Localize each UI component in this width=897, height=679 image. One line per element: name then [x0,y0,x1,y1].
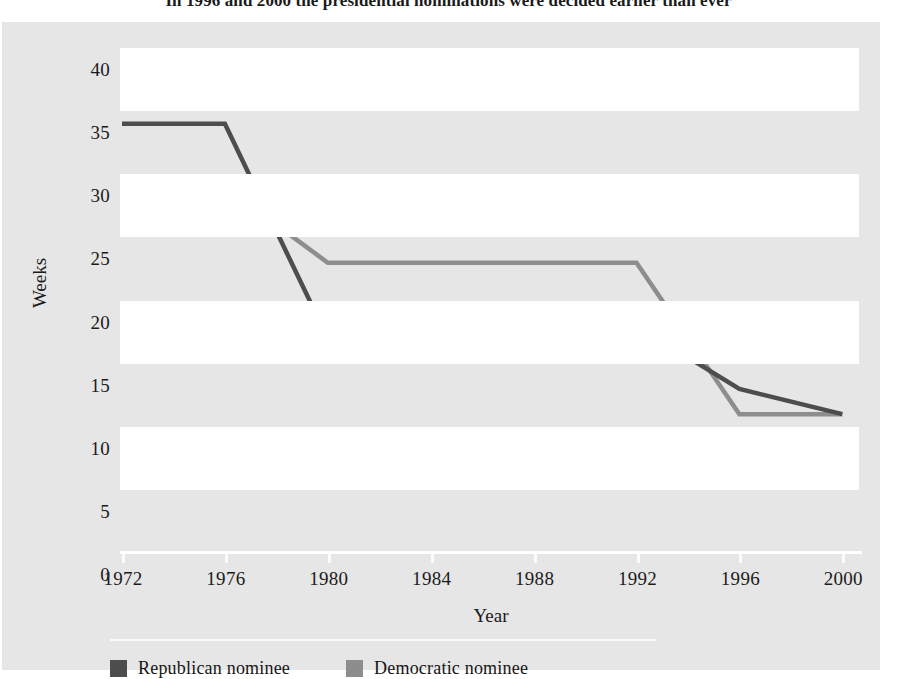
republican-swatch [110,660,127,677]
x-axis-tick-mark [842,554,845,563]
x-axis-tick-label: 1976 [181,568,271,590]
y-axis-tick-label: 5 [66,501,110,523]
x-axis-tick-mark [739,554,742,563]
x-axis-tick-mark [122,554,125,563]
x-axis-tick-mark [328,554,331,563]
y-axis-tick-label: 35 [66,122,110,144]
y-axis-title: Weeks [29,223,51,343]
x-axis-tick-label: 2000 [798,568,888,590]
x-axis-tick-mark [431,554,434,563]
legend-label: Republican nominee [138,658,290,679]
x-axis-line [120,551,862,554]
legend-divider [110,639,656,641]
y-axis-tick-label: 40 [66,59,110,81]
series-line-republican [122,124,842,414]
x-axis-tick-mark [225,554,228,563]
gridline-band [120,48,859,111]
x-axis-tick-label: 1984 [387,568,477,590]
x-axis-tick-label: 1972 [78,568,168,590]
y-axis-tick-label: 20 [66,312,110,334]
y-axis-tick-label: 25 [66,248,110,270]
y-axis-tick-label: 15 [66,375,110,397]
x-axis-tick-mark [637,554,640,563]
chart-legend: Republican nomineeDemocratic nominee [110,658,584,679]
x-axis-tick-label: 1980 [284,568,374,590]
x-axis-title: Year [120,605,862,627]
gridline-band [120,301,859,364]
legend-label: Democratic nominee [374,658,528,679]
y-axis-tick-label: 10 [66,438,110,460]
democratic-swatch [346,660,363,677]
x-axis-tick-label: 1996 [695,568,785,590]
gridline-band [120,427,859,490]
y-axis-tick-label: 30 [66,185,110,207]
y-axis-ticks: 0510152025303540 [54,55,110,553]
x-axis-tick-label: 1988 [490,568,580,590]
plot-area [120,33,859,553]
x-axis-tick-label: 1992 [593,568,683,590]
legend-item: Republican nominee [110,658,290,679]
figure-title: In 1996 and 2000 the presidential nomina… [0,0,897,13]
chart-panel: 0510152025303540 Weeks 19721976198019841… [2,22,880,670]
legend-item: Democratic nominee [346,658,528,679]
x-axis-tick-mark [534,554,537,563]
gridline-band [120,174,859,237]
